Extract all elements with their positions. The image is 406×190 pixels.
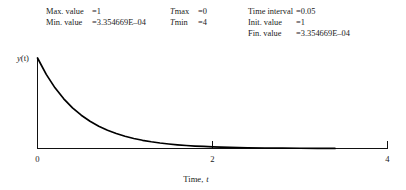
y-axis-label-rest: (t) bbox=[21, 53, 29, 63]
param-value: 0.05 bbox=[301, 6, 316, 17]
param-value: 1 bbox=[301, 17, 305, 28]
param-value: 4 bbox=[203, 17, 207, 28]
param-value: 1 bbox=[97, 6, 101, 17]
param-row: Max. value=1 bbox=[46, 6, 146, 17]
param-row: Time interval=0.05 bbox=[248, 6, 350, 17]
decay-curve bbox=[38, 58, 336, 148]
integration-column: Time interval=0.05 Init. value=1 Fin. va… bbox=[248, 6, 350, 40]
plot-svg: 0 2 4 y(t) Time,t bbox=[0, 40, 406, 190]
param-row: Tmin=4 bbox=[170, 17, 207, 28]
x-axis-label: Time,t bbox=[183, 174, 209, 184]
param-label: Min. value bbox=[46, 17, 92, 28]
param-label: Max. value bbox=[46, 6, 92, 17]
param-label: Tmin bbox=[170, 17, 198, 28]
decay-plot: 0 2 4 y(t) Time,t bbox=[0, 40, 406, 190]
y-axis-label: y(t) bbox=[16, 53, 29, 63]
x-tick-label-4: 4 bbox=[385, 154, 390, 164]
stats-column: Max. value=1 Min. value=3.354669E‒04 bbox=[46, 6, 146, 28]
param-value: 3.354669E‒04 bbox=[97, 17, 146, 28]
x-axis-label-text: Time, bbox=[183, 174, 203, 184]
param-value: 0 bbox=[203, 6, 207, 17]
param-label: Fin. value bbox=[248, 28, 296, 39]
param-row: Fin. value=3.354669E‒04 bbox=[248, 28, 350, 39]
param-label: Tmax bbox=[170, 6, 198, 17]
param-row: Tmax=0 bbox=[170, 6, 207, 17]
x-tick-label-2: 2 bbox=[210, 154, 214, 164]
param-value: 3.354669E‒04 bbox=[301, 28, 350, 39]
x-axis-label-symbol: t bbox=[206, 174, 209, 184]
param-label: Init. value bbox=[248, 17, 296, 28]
param-row: Min. value=3.354669E‒04 bbox=[46, 17, 146, 28]
param-row: Init. value=1 bbox=[248, 17, 350, 28]
tmax-symbol: T bbox=[170, 7, 175, 16]
x-tick-label-0: 0 bbox=[35, 154, 39, 164]
tmin-symbol: T bbox=[170, 18, 175, 27]
param-label: Time interval bbox=[248, 6, 296, 17]
time-range-column: Tmax=0 Tmin=4 bbox=[170, 6, 207, 28]
